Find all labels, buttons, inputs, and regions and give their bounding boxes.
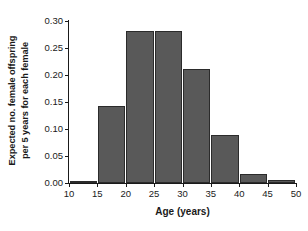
y-tick-mark	[65, 21, 69, 22]
x-tick-mark	[183, 183, 184, 187]
y-axis-label-line-2: per 5 years for each female	[19, 35, 32, 165]
bar	[240, 174, 267, 183]
bar	[183, 69, 210, 183]
y-tick-label: 0.20	[45, 70, 64, 80]
x-tick-label: 45	[262, 189, 273, 199]
bar	[268, 180, 295, 183]
x-tick-mark	[211, 183, 212, 187]
y-tick-mark	[65, 48, 69, 49]
x-tick-label: 30	[177, 189, 188, 199]
plot-area: 0.000.050.100.150.200.250.30 10152025303…	[69, 21, 296, 183]
y-axis-label: Expected no. female offspring per 5 year…	[0, 0, 38, 200]
y-tick-mark	[65, 75, 69, 76]
bar	[155, 31, 182, 183]
x-tick-mark	[69, 183, 70, 187]
bar	[211, 135, 238, 183]
y-tick-label: 0.05	[45, 151, 64, 161]
y-axis-label-line-1: Expected no. female offspring	[7, 35, 20, 165]
x-tick-mark	[126, 183, 127, 187]
x-tick-label: 50	[291, 189, 302, 199]
x-tick-label: 20	[120, 189, 131, 199]
x-tick-mark	[97, 183, 98, 187]
x-tick-label: 10	[64, 189, 75, 199]
y-tick-mark	[65, 129, 69, 130]
x-tick-mark	[239, 183, 240, 187]
x-tick-label: 25	[149, 189, 160, 199]
y-tick-label: 0.25	[45, 43, 64, 53]
y-tick-label: 0.30	[45, 16, 64, 26]
x-tick-mark	[268, 183, 269, 187]
x-tick-mark	[154, 183, 155, 187]
y-tick-label: 0.10	[45, 124, 64, 134]
chart-figure: Expected no. female offspring per 5 year…	[0, 0, 308, 231]
x-tick-mark	[296, 183, 297, 187]
y-tick-label: 0.15	[45, 97, 64, 107]
y-tick-label: 0.00	[45, 178, 64, 188]
bar	[98, 106, 125, 183]
bar	[70, 181, 97, 183]
bar	[126, 31, 153, 183]
y-tick-mark	[65, 102, 69, 103]
x-tick-label: 35	[206, 189, 217, 199]
x-tick-label: 15	[92, 189, 103, 199]
y-tick-mark	[65, 156, 69, 157]
x-tick-label: 40	[234, 189, 245, 199]
x-axis-label: Age (years)	[69, 206, 296, 217]
